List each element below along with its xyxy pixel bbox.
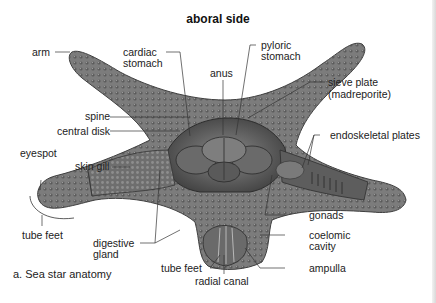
label-central-disk: central disk — [57, 126, 110, 137]
label-arm: arm — [32, 47, 50, 58]
diagram-title: aboral side — [0, 12, 436, 26]
label-coelomic-cavity-line2: cavity — [309, 241, 336, 252]
label-spine: spine — [85, 111, 110, 122]
label-pyloric-stomach-line2: stomach — [261, 51, 301, 62]
label-cardiac-stomach-line2: stomach — [123, 58, 163, 69]
label-skin-gill: skin gill — [75, 161, 109, 172]
label-sieve-plate-line1: sieve plate — [328, 77, 378, 88]
label-tube-feet-bottom: tube feet — [161, 263, 202, 274]
label-endoskeletal-plates: endoskeletal plates — [330, 130, 420, 141]
page-edge-shadow — [432, 0, 436, 303]
figure-caption: a. Sea star anatomy — [13, 268, 111, 280]
label-eyespot: eyespot — [20, 148, 57, 159]
label-radial-canal: radial canal — [195, 276, 249, 287]
label-ampulla: ampulla — [309, 263, 346, 274]
label-gonads: gonads — [309, 210, 343, 221]
label-digestive-gland-line2: gland — [93, 249, 119, 260]
label-sieve-plate-line2: (madreporite) — [328, 89, 391, 100]
sea-star-illustration — [0, 0, 436, 303]
label-tube-feet-left: tube feet — [22, 230, 63, 241]
sea-star-anatomy-diagram: aboral side arm cardiac stomach anus pyl… — [0, 0, 436, 303]
label-anus: anus — [210, 68, 233, 79]
